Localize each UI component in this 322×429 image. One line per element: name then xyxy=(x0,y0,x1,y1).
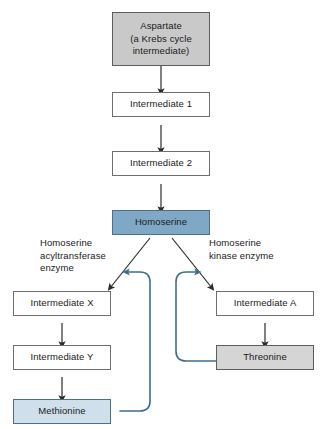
node-methionine-label: Methionine xyxy=(38,405,85,418)
node-aspartate-label: Aspartate (a Krebs cycle intermediate) xyxy=(130,20,192,58)
feedback-threonine-to-branch-right xyxy=(176,272,216,361)
node-intermediate-x-label: Intermediate X xyxy=(30,297,93,310)
node-intermediate-1[interactable]: Intermediate 1 xyxy=(112,92,210,117)
node-intermediate-x[interactable]: Intermediate X xyxy=(13,291,111,316)
node-homoserine[interactable]: Homoserine xyxy=(112,210,210,235)
node-intermediate-2[interactable]: Intermediate 2 xyxy=(112,151,210,176)
node-homoserine-label: Homoserine xyxy=(135,216,187,229)
feedback-methionine-to-branch-left xyxy=(120,272,150,411)
node-intermediate-y-label: Intermediate Y xyxy=(30,351,93,364)
node-intermediate-a[interactable]: Intermediate A xyxy=(216,291,314,316)
node-aspartate[interactable]: Aspartate (a Krebs cycle intermediate) xyxy=(112,12,210,66)
pathway-diagram: Aspartate (a Krebs cycle intermediate) I… xyxy=(0,0,322,429)
label-enzyme-acyltransferase: Homoserine acyltransferase enzyme xyxy=(40,237,106,275)
node-threonine[interactable]: Threonine xyxy=(216,345,314,370)
node-intermediate-y[interactable]: Intermediate Y xyxy=(13,345,111,370)
node-methionine[interactable]: Methionine xyxy=(13,399,111,424)
label-enzyme-kinase: Homoserine kinase enzyme xyxy=(209,237,274,262)
node-intermediate-a-label: Intermediate A xyxy=(234,297,297,310)
node-intermediate-2-label: Intermediate 2 xyxy=(130,157,192,170)
node-threonine-label: Threonine xyxy=(243,351,287,364)
node-intermediate-1-label: Intermediate 1 xyxy=(130,98,192,111)
arrow-homoserine-to-inta xyxy=(172,238,212,288)
arrow-homoserine-to-intx xyxy=(110,238,150,288)
